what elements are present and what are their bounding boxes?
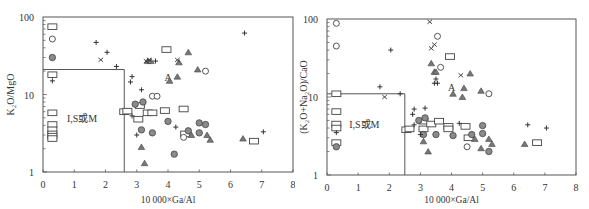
filled-circle-marker: [196, 130, 202, 136]
plus-marker: [50, 78, 55, 83]
x-tick-label: 1: [72, 179, 77, 190]
x-tick-label: 0: [41, 179, 46, 190]
x-tick-label: 8: [574, 182, 579, 193]
triangle-marker: [420, 138, 427, 144]
x-axis-label: 10 000×Ga/Al: [141, 195, 196, 205]
triangle-marker: [194, 67, 201, 73]
square-marker: [533, 140, 542, 146]
open-circle-marker: [486, 91, 492, 97]
plus-marker: [94, 40, 99, 45]
y-tick-label: 10: [308, 92, 318, 103]
x-tick-label: 3: [134, 179, 139, 190]
open-circle-marker: [434, 33, 440, 39]
square-marker: [332, 109, 341, 115]
square-marker: [332, 91, 341, 97]
plus-marker: [525, 122, 530, 127]
filled-circle-marker: [450, 132, 456, 138]
chart-left: 01234567811010010 000×Ga/AlK₂O/MgOI,S或MA: [0, 0, 295, 209]
field-boundary: [327, 94, 405, 175]
filled-circle-marker: [165, 118, 171, 124]
open-circle-marker: [49, 36, 55, 42]
filled-circle-marker: [171, 151, 177, 157]
plus-marker: [128, 79, 133, 84]
filled-circle-marker: [416, 117, 422, 123]
triangle-marker: [459, 94, 466, 100]
x-tick-label: 4: [166, 179, 171, 190]
filled-circle-marker: [140, 99, 146, 105]
square-marker: [134, 116, 143, 122]
square-marker: [48, 136, 57, 142]
x-tick-label: 6: [511, 182, 516, 193]
x-tick-label: 7: [259, 179, 264, 190]
cross-marker: [459, 73, 464, 77]
x-tick-label: 7: [542, 182, 547, 193]
x-tick-label: 5: [197, 179, 202, 190]
field-label-ism: I,S或M: [67, 113, 97, 124]
x-tick-label: 0: [325, 182, 330, 193]
filled-circle-marker: [479, 130, 485, 136]
square-marker: [162, 47, 171, 53]
square-marker: [444, 126, 453, 132]
filled-circle-marker: [486, 148, 492, 154]
square-marker: [249, 138, 258, 144]
plus-marker: [261, 129, 266, 134]
x-tick-label: 2: [103, 179, 108, 190]
plus-marker: [242, 31, 247, 36]
triangle-marker: [486, 136, 493, 142]
y-tick-label: 100: [303, 14, 318, 25]
y-tick-label: 10: [24, 90, 34, 101]
plus-marker: [139, 87, 144, 92]
plot-frame: [43, 17, 293, 172]
triangle-marker: [138, 144, 145, 150]
plus-marker: [134, 133, 139, 138]
open-circle-marker: [154, 93, 160, 99]
triangle-marker: [461, 85, 468, 91]
filled-circle-marker: [333, 144, 339, 150]
open-circle-marker: [333, 43, 339, 49]
square-marker: [48, 72, 57, 78]
x-tick-label: 4: [449, 182, 454, 193]
triangle-marker: [467, 71, 474, 77]
square-marker: [435, 118, 444, 124]
triangle-marker: [174, 74, 181, 80]
triangle-marker: [141, 160, 148, 166]
cross-marker: [382, 95, 387, 99]
plus-marker: [398, 91, 403, 96]
x-tick-label: 5: [480, 182, 485, 193]
cross-marker: [99, 58, 104, 62]
filled-circle-marker: [132, 101, 138, 107]
cross-marker: [427, 20, 432, 24]
y-axis-label: (K₂O+Na₂O)/CaO: [298, 60, 310, 134]
square-marker: [160, 108, 169, 114]
square-marker: [461, 124, 470, 130]
chart-right: 01234567811010010 000×Ga/Al(K₂O+Na₂O)/Ca…: [295, 0, 589, 209]
triangle-marker: [185, 49, 192, 55]
filled-circle-marker: [469, 131, 475, 137]
filled-circle-marker: [138, 127, 144, 133]
triangle-marker: [521, 141, 528, 147]
square-marker: [48, 24, 57, 30]
triangle-marker: [204, 132, 211, 138]
filled-circle-marker: [422, 115, 428, 121]
open-circle-marker: [438, 64, 444, 70]
filled-circle-marker: [49, 54, 55, 60]
plus-marker: [105, 50, 110, 55]
x-tick-label: 1: [356, 182, 361, 193]
triangle-marker: [478, 145, 485, 151]
open-circle-marker: [464, 144, 470, 150]
cross-marker: [432, 43, 437, 47]
plus-marker: [114, 64, 119, 69]
square-marker: [148, 110, 157, 116]
triangle-marker: [425, 149, 432, 155]
x-tick-label: 3: [418, 182, 423, 193]
square-marker: [48, 122, 57, 128]
x-tick-label: 2: [387, 182, 392, 193]
filled-circle-marker: [479, 122, 485, 128]
plot-frame: [327, 19, 576, 175]
plus-marker: [412, 107, 417, 112]
x-tick-label: 6: [228, 179, 233, 190]
square-marker: [48, 110, 57, 116]
triangle-marker: [428, 60, 435, 66]
plus-marker: [388, 48, 393, 53]
x-axis-label: 10 000×Ga/Al: [424, 195, 479, 205]
